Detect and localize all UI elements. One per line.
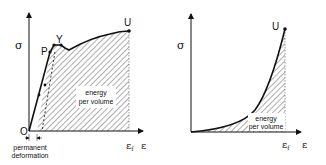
ductile-diagram: σ P Y U O εf ε energy per volume permane…: [12, 13, 147, 159]
label-y: Y: [56, 34, 63, 45]
y-axis-label: σ: [177, 39, 185, 52]
stress-strain-diagrams: σ P Y U O εf ε energy per volume permane…: [0, 0, 326, 165]
label-u: U: [272, 21, 279, 32]
point-u: [127, 29, 131, 33]
fracture-strain-label: εf: [282, 139, 290, 151]
brittle-diagram: σ U εf ε energy per volume: [177, 14, 307, 151]
energy-area: [37, 31, 129, 131]
area-label-2: per volume: [79, 98, 114, 106]
origin-label: O: [20, 126, 28, 137]
label-p: P: [41, 46, 48, 57]
point-p: [48, 50, 51, 53]
y-axis-label: σ: [15, 39, 23, 52]
label-u: U: [124, 17, 131, 28]
point-u: [283, 27, 287, 31]
x-axis-label: ε: [302, 139, 307, 150]
x-axis-label: ε: [141, 140, 146, 151]
area-label-1: energy: [255, 115, 277, 123]
note-line-1: permanent: [13, 144, 47, 152]
area-label-2: per volume: [249, 123, 284, 131]
fracture-strain-label: εf: [126, 140, 134, 152]
area-label-1: energy: [85, 89, 107, 97]
note-line-2: deformation: [12, 152, 49, 159]
